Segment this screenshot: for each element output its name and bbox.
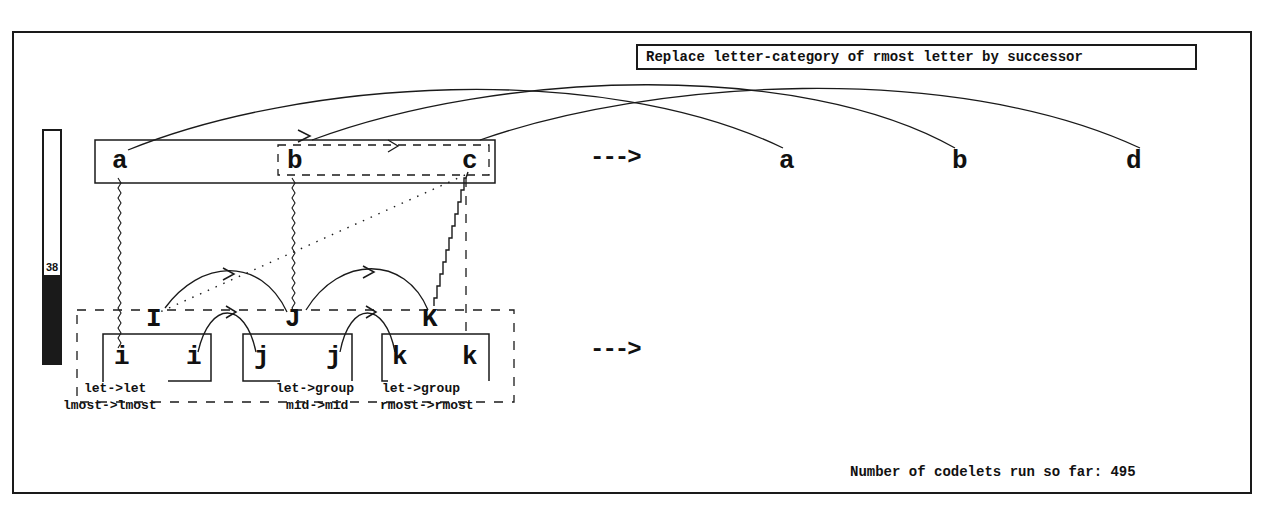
modified-letter: a	[779, 148, 795, 174]
correspondence-a-i	[118, 178, 121, 348]
group-letter: K	[422, 306, 438, 332]
target-letter: j	[254, 344, 270, 370]
bond-ii-jj	[198, 313, 256, 352]
rule-arc-a	[128, 89, 783, 150]
workspace-structures	[0, 0, 1275, 522]
target-letter: k	[462, 344, 478, 370]
correspondence-label: lmost->lmost	[63, 398, 157, 413]
bond-arrowhead-icon	[366, 306, 376, 318]
initial-letter: c	[462, 148, 478, 174]
bottom-transform-arrow-icon: --->	[590, 338, 640, 362]
target-letter: k	[392, 344, 408, 370]
correspondence-b-J	[292, 178, 295, 313]
initial-letter: a	[112, 148, 128, 174]
group-letter: I	[146, 306, 162, 332]
bc-successor-group-box	[278, 145, 489, 175]
codelet-count-status: Number of codelets run so far: 495	[850, 464, 1136, 480]
bond-jj-kk	[340, 313, 395, 352]
initial-letter: b	[287, 148, 303, 174]
correspondence-c-K	[434, 172, 468, 306]
target-letter: i	[114, 344, 130, 370]
modified-letter: d	[1126, 148, 1142, 174]
group-letter: J	[285, 306, 301, 332]
dotted-correspondence-c-I	[160, 175, 465, 312]
correspondence-label: let->group	[382, 381, 460, 396]
top-transform-arrow-icon: --->	[590, 146, 640, 170]
correspondence-label: rmost->rmost	[380, 398, 474, 413]
bond-J-K	[306, 269, 428, 310]
target-letter: i	[186, 344, 202, 370]
bond-I-J	[165, 271, 287, 312]
correspondence-label: let->let	[84, 381, 146, 396]
bond-arrowhead-icon	[363, 266, 374, 278]
modified-letter: b	[952, 148, 968, 174]
rule-arc-c	[480, 88, 1140, 148]
bond-arrowhead-icon	[226, 306, 236, 318]
rule-arc-b	[312, 85, 955, 148]
bond-arrowhead-icon	[388, 140, 398, 152]
correspondence-label: mid->mid	[286, 398, 348, 413]
correspondence-label: let->group	[276, 381, 354, 396]
target-letter: j	[326, 344, 342, 370]
bond-arrowhead-icon	[223, 268, 234, 280]
